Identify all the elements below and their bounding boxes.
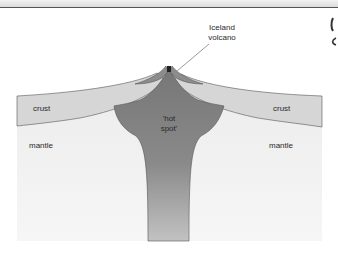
margin-mark-bottom (333, 38, 336, 45)
mantle-right-label: mantle (269, 141, 293, 151)
volcano-vent (167, 66, 171, 72)
margin-mark-top (332, 18, 334, 31)
volcano-leader-line (177, 44, 209, 71)
volcano-label-line1: Iceland (199, 23, 245, 33)
hotspot-label: 'hot spot' (154, 114, 184, 134)
crust-right-label: crust (273, 104, 290, 114)
crust-left-label: crust (33, 104, 50, 114)
hotspot-label-line1: 'hot (154, 114, 184, 124)
top-border-band (0, 0, 338, 7)
volcano-label: Iceland volcano (199, 23, 245, 43)
hotspot-label-line2: spot' (154, 124, 184, 134)
volcano-label-line2: volcano (199, 33, 245, 43)
mantle-left-label: mantle (29, 141, 53, 151)
diagram-canvas: Iceland volcano crust crust mantle mantl… (0, 0, 338, 256)
